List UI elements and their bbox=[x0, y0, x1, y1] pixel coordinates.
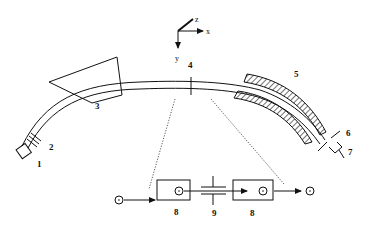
label-1: 1 bbox=[37, 159, 42, 169]
axis-y-label: y bbox=[175, 54, 179, 63]
axis-z-label: z bbox=[195, 15, 199, 24]
detector-lead bbox=[339, 150, 344, 158]
beamline-diagram: x y z 1 2 bbox=[0, 0, 369, 226]
label-4: 4 bbox=[188, 60, 193, 70]
magnet-component bbox=[49, 57, 122, 103]
label-2: 2 bbox=[49, 142, 54, 152]
label-8-left: 8 bbox=[174, 207, 179, 217]
grid-plates-component bbox=[27, 133, 41, 147]
coordinate-axes-icon: x y z bbox=[175, 15, 210, 63]
label-5: 5 bbox=[294, 69, 299, 79]
label-7: 7 bbox=[348, 147, 353, 157]
axis-x-label: x bbox=[206, 27, 210, 36]
label-6: 6 bbox=[346, 128, 351, 138]
projection-line-left bbox=[149, 99, 175, 189]
label-3: 3 bbox=[95, 101, 100, 111]
label-9: 9 bbox=[212, 208, 217, 218]
label-8-right: 8 bbox=[250, 208, 255, 218]
electrode-8-left bbox=[157, 180, 190, 200]
